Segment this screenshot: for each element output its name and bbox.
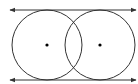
tangent-circles-diagram <box>0 0 138 84</box>
right-center-point <box>98 43 101 46</box>
left-center-point <box>45 43 48 46</box>
